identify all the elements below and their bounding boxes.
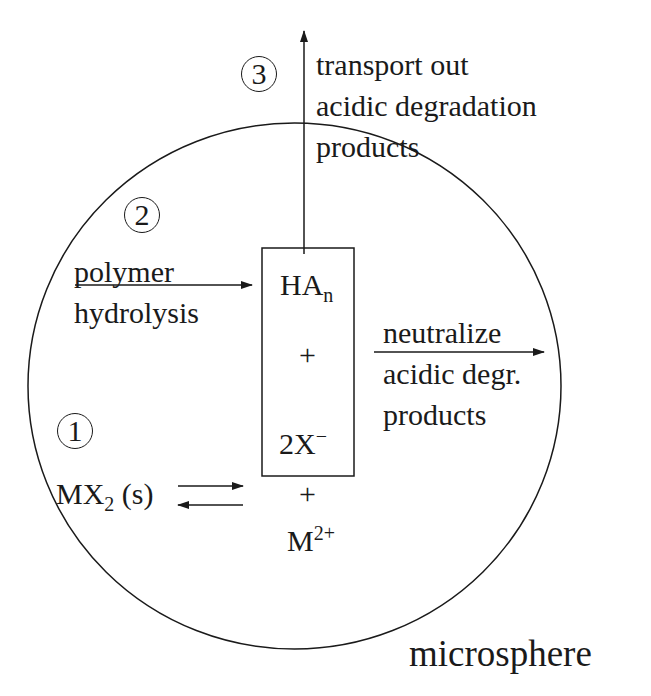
step-2-label: polymer hydrolysis [74, 251, 199, 333]
species-2x-sup: − [316, 425, 327, 447]
neutralize-label: neutralize acidic degr. products [383, 312, 521, 435]
step-1-sub: 2 [104, 493, 114, 515]
step-3-line-1: transport out [316, 44, 537, 85]
neutralize-line-2: acidic degr. [383, 353, 521, 394]
step-1-label: MX2 (s) [56, 477, 154, 511]
species-plus: + [299, 338, 316, 372]
below-box-plus: + [299, 477, 316, 511]
step-3-number-icon: 3 [241, 56, 277, 92]
step-2-number-icon: 2 [124, 197, 160, 233]
species-2x-base: 2X [279, 427, 316, 460]
neutralize-line-3: products [383, 394, 521, 435]
step-3-label: transport out acidic degradation product… [316, 44, 537, 167]
step-3-line-2: acidic degradation [316, 85, 537, 126]
step-2-line-1: polymer [74, 251, 199, 292]
metal-ion-sup: 2+ [314, 522, 335, 544]
microsphere-label: microsphere [409, 633, 592, 675]
step-1-suffix: (s) [114, 477, 153, 510]
species-han-base: HA [280, 268, 323, 301]
species-2x: 2X− [279, 427, 327, 461]
step-2-line-2: hydrolysis [74, 292, 199, 333]
species-han: HAn [280, 268, 333, 302]
metal-ion: M2+ [287, 524, 335, 558]
step-3-line-3: products [316, 126, 537, 167]
metal-ion-base: M [287, 524, 314, 557]
neutralize-line-1: neutralize [383, 312, 521, 353]
step-1-number-icon: 1 [57, 413, 93, 449]
species-han-sub: n [323, 284, 333, 306]
step-1-formula: MX [56, 477, 104, 510]
